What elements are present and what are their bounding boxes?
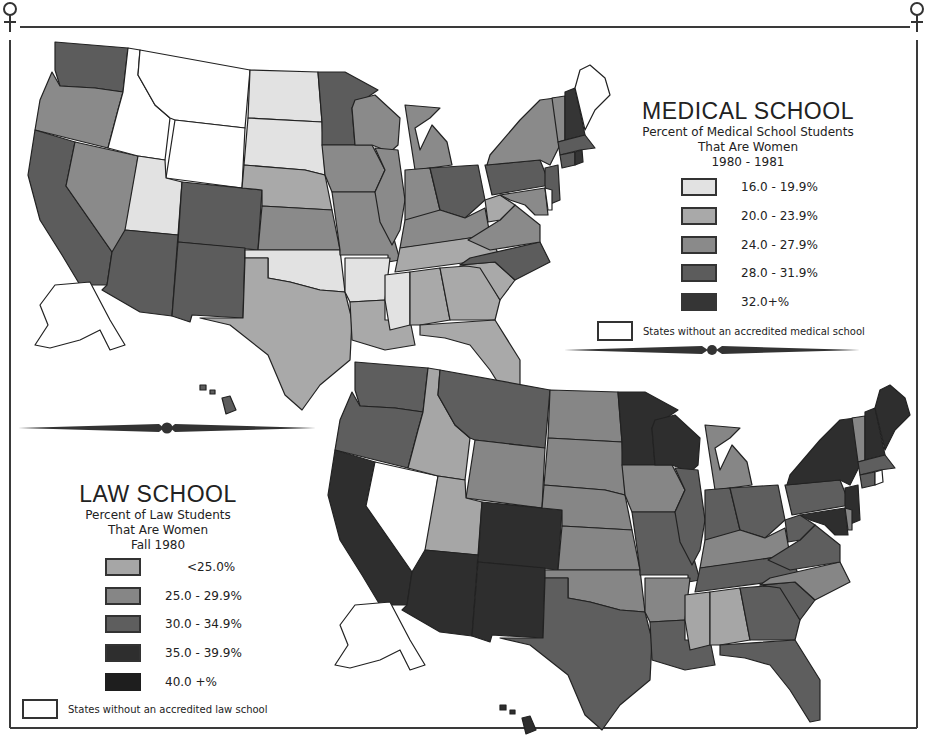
state-ri [875, 470, 883, 485]
legend-swatch [105, 558, 141, 576]
state-ks [258, 206, 340, 250]
legend-swatch-none [597, 321, 633, 341]
medical-legend-year: 1980 - 1981 [618, 155, 878, 170]
medical-legend-item: 28.0 - 31.9% [681, 262, 818, 284]
medical-no-school-legend: States without an accredited medical sch… [597, 321, 865, 341]
legend-swatch [105, 644, 141, 662]
legend-swatch-none [22, 699, 58, 719]
ornamental-divider [16, 418, 318, 438]
law-no-school-legend: States without an accredited law school [22, 699, 268, 719]
legend-label: 25.0 - 29.9% [165, 589, 242, 603]
medical-legend-item: 20.0 - 23.9% [681, 205, 818, 227]
state-ia [322, 145, 385, 192]
legend-swatch [681, 178, 717, 196]
law-school-map [328, 362, 910, 734]
legend-label: <25.0% [187, 560, 235, 574]
legend-swatch [681, 207, 717, 225]
state-ny [787, 418, 860, 485]
state-ar [645, 578, 690, 622]
state-ri [575, 150, 583, 165]
state-wi [652, 415, 700, 472]
state-mi [705, 425, 752, 490]
medical-legend-item: 16.0 - 19.9% [681, 176, 818, 198]
state-hi [500, 705, 536, 734]
medical-legend-item: 24.0 - 27.9% [681, 234, 818, 256]
state-wa [55, 42, 128, 92]
medical-legend-title: MEDICAL SCHOOL [618, 98, 878, 125]
law-legend-item: <25.0% [105, 556, 235, 578]
law-legend-item: 40.0 +% [105, 671, 217, 693]
legend-label: 32.0+% [741, 295, 789, 309]
law-legend-subtitle: That Are Women [38, 523, 278, 538]
medical-school-map [28, 42, 610, 414]
medical-legend-subtitle: Percent of Medical School Students [618, 125, 878, 140]
state-fl [720, 640, 820, 722]
law-legend-title: LAW SCHOOL [38, 481, 278, 508]
state-ms [685, 592, 710, 650]
state-co [478, 502, 562, 570]
medical-legend-subtitle: That Are Women [618, 140, 878, 155]
state-ks [558, 526, 640, 570]
state-co [178, 182, 262, 250]
medical-legend-item: 32.0+% [681, 291, 789, 313]
legend-label: States without an accredited law school [68, 704, 268, 715]
law-legend-item: 25.0 - 29.9% [105, 585, 242, 607]
state-ia [622, 465, 685, 512]
law-legend-item: 35.0 - 39.9% [105, 642, 242, 664]
legend-swatch [105, 673, 141, 691]
legend-swatch [105, 587, 141, 605]
state-nm [172, 242, 245, 322]
state-wi [352, 95, 400, 152]
law-legend: LAW SCHOOL Percent of Law Students That … [38, 481, 278, 553]
law-legend-item: 30.0 - 34.9% [105, 613, 242, 635]
legend-label: 40.0 +% [165, 675, 217, 689]
legend-swatch [681, 293, 717, 311]
state-wa [355, 362, 428, 412]
law-legend-subtitle: Percent of Law Students [38, 508, 278, 523]
state-nd [548, 390, 622, 442]
legend-label: 24.0 - 27.9% [741, 238, 818, 252]
state-nm [472, 562, 545, 642]
ornamental-divider [562, 340, 862, 360]
state-mi [405, 105, 452, 170]
state-hi [200, 385, 236, 414]
legend-label: 28.0 - 31.9% [741, 266, 818, 280]
state-wy [166, 120, 245, 188]
state-ms [385, 272, 410, 330]
legend-label: 35.0 - 39.9% [165, 646, 242, 660]
state-nd [248, 70, 322, 122]
legend-swatch [105, 615, 141, 633]
state-ny [487, 98, 560, 165]
state-ct [560, 152, 575, 168]
state-wy [466, 440, 545, 508]
medical-legend: MEDICAL SCHOOL Percent of Medical School… [618, 98, 878, 170]
legend-label: 16.0 - 19.9% [741, 180, 818, 194]
legend-label: 30.0 - 34.9% [165, 617, 242, 631]
state-ct [860, 472, 875, 488]
legend-swatch [681, 264, 717, 282]
legend-label: 20.0 - 23.9% [741, 209, 818, 223]
state-ar [345, 258, 390, 302]
legend-swatch [681, 236, 717, 254]
law-legend-year: Fall 1980 [38, 538, 278, 553]
legend-label: States without an accredited medical sch… [643, 326, 865, 337]
